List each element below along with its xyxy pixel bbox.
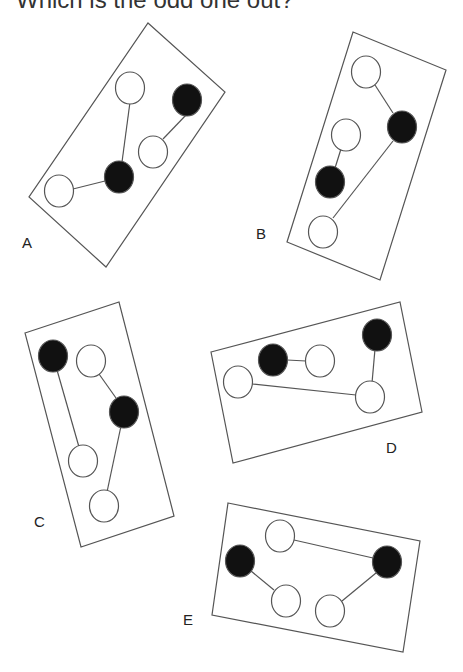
white-circle xyxy=(309,216,338,248)
connector-line xyxy=(122,102,130,162)
option-panel-a[interactable] xyxy=(29,23,225,267)
white-circle xyxy=(316,595,345,627)
black-circle xyxy=(373,546,402,578)
option-panel-e[interactable] xyxy=(212,503,420,652)
white-circle xyxy=(116,72,145,104)
panel-frame xyxy=(29,23,225,267)
connector-line xyxy=(107,426,121,492)
option-label-e[interactable]: E xyxy=(183,611,193,628)
connector-line xyxy=(342,573,376,601)
white-circle xyxy=(45,175,74,207)
connector-line xyxy=(73,181,105,189)
white-circle xyxy=(332,119,361,151)
black-circle xyxy=(363,319,392,351)
option-panel-b[interactable] xyxy=(287,32,446,280)
black-circle xyxy=(110,396,139,428)
option-label-c[interactable]: C xyxy=(34,513,45,530)
white-circle xyxy=(77,345,106,377)
connector-line xyxy=(372,349,375,383)
connector-line xyxy=(57,370,79,447)
connector-line xyxy=(251,571,274,590)
option-label-b[interactable]: B xyxy=(256,225,266,242)
option-label-a[interactable]: A xyxy=(22,234,32,251)
connector-line xyxy=(99,374,116,398)
option-label-d[interactable]: D xyxy=(386,439,397,456)
white-circle xyxy=(306,345,335,377)
white-circle xyxy=(224,366,253,398)
connector-line xyxy=(294,540,373,558)
black-circle xyxy=(105,161,134,193)
white-circle xyxy=(356,381,385,413)
white-circle xyxy=(139,136,168,168)
white-circle xyxy=(272,585,301,617)
connector-line xyxy=(252,384,356,395)
white-circle xyxy=(69,445,98,477)
connector-line xyxy=(287,360,306,361)
white-circle xyxy=(266,520,295,552)
black-circle xyxy=(173,84,202,116)
black-circle xyxy=(388,111,417,143)
connector-line xyxy=(163,114,187,139)
black-circle xyxy=(259,344,288,376)
black-circle xyxy=(316,166,345,198)
white-circle xyxy=(90,490,119,522)
connector-line xyxy=(335,149,341,168)
black-circle xyxy=(226,545,255,577)
connector-line xyxy=(375,85,393,113)
white-circle xyxy=(352,56,381,88)
black-circle xyxy=(39,340,68,372)
option-panel-c[interactable] xyxy=(25,302,174,547)
puzzle-diagram xyxy=(0,0,463,672)
